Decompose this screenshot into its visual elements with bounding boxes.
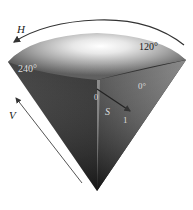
hue-angle-240-label: 240° — [18, 63, 37, 74]
hue-angle-0-label: 0° — [138, 81, 147, 91]
saturation-start-label: 0 — [94, 93, 98, 102]
saturation-end-label: 1 — [123, 115, 128, 125]
value-axis-label: V — [9, 109, 17, 121]
cone-body — [8, 33, 186, 191]
saturation-axis-label: S — [105, 106, 110, 117]
hsv-cone-diagram: H 120° 240° 0° 0 S 1 V — [0, 0, 193, 210]
cone-value-shading — [8, 60, 186, 191]
diagram-canvas: H 120° 240° 0° 0 S 1 V — [0, 0, 193, 210]
hue-angle-120-label: 120° — [139, 41, 158, 52]
hue-axis-label: H — [16, 23, 26, 35]
